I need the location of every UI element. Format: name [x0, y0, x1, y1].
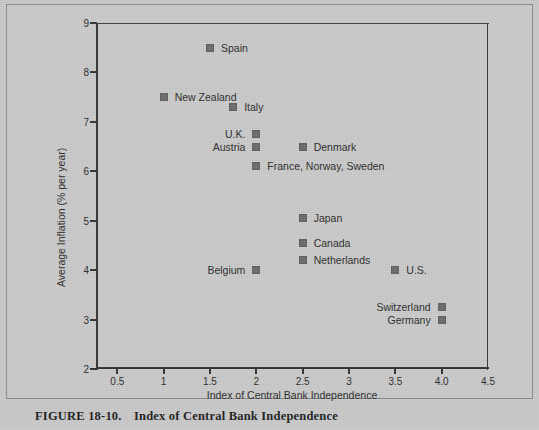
data-point-marker	[252, 266, 260, 274]
data-point-marker	[299, 239, 307, 247]
y-axis-tick-label: 9	[83, 18, 89, 29]
data-point-marker	[391, 266, 399, 274]
data-point-label: Austria	[213, 141, 246, 153]
plot-right-border	[487, 23, 488, 370]
y-axis-tick-label: 3	[83, 314, 89, 325]
x-axis-tick-label: 1	[161, 376, 167, 387]
x-axis-tick	[441, 368, 443, 374]
figure-caption-number: FIGURE 18-10.	[35, 409, 122, 423]
x-axis-tick-label: 4.0	[435, 376, 449, 387]
x-axis-tick	[394, 368, 396, 374]
y-axis-tick	[90, 121, 97, 123]
x-axis-title-text: Index of Central Bank Independence	[207, 389, 377, 401]
y-axis-tick-label: 7	[83, 116, 89, 127]
x-axis-tick	[255, 368, 257, 374]
y-axis-tick	[90, 319, 97, 321]
y-axis-tick	[90, 269, 97, 271]
data-point-marker	[252, 130, 260, 138]
data-point-marker	[252, 162, 260, 170]
data-point-label: France, Norway, Sweden	[267, 160, 384, 172]
data-point-label: Netherlands	[314, 254, 371, 266]
y-axis-tick	[90, 71, 97, 73]
x-axis-title: Index of Central Bank Independence	[96, 389, 488, 401]
data-point-label: New Zealand	[175, 91, 237, 103]
x-axis-tick-label: 2.5	[296, 376, 310, 387]
plot-top-border	[96, 23, 489, 24]
y-axis-title-text: Average Inflation (% per year)	[55, 148, 67, 287]
y-axis-tick-label: 2	[83, 364, 89, 375]
data-point-label: Spain	[221, 42, 248, 54]
x-axis-tick	[116, 368, 118, 374]
data-point-marker	[252, 143, 260, 151]
data-point-label: Japan	[314, 212, 343, 224]
x-axis-tick-label: 2	[254, 376, 260, 387]
x-axis-tick-label: 1.5	[203, 376, 217, 387]
y-axis-tick	[90, 170, 97, 172]
figure-page: Average Inflation (% per year) 23456789 …	[0, 0, 539, 430]
data-point-marker	[438, 303, 446, 311]
x-axis-tick-label: 0.5	[110, 376, 124, 387]
data-point-marker	[299, 214, 307, 222]
data-point-marker	[160, 93, 168, 101]
y-axis-tick-label: 6	[83, 166, 89, 177]
data-point-marker	[229, 103, 237, 111]
y-axis-tick	[90, 22, 97, 24]
y-axis-tick-label: 5	[83, 215, 89, 226]
data-point-label: Germany	[387, 314, 430, 326]
figure-frame: Average Inflation (% per year) 23456789 …	[6, 4, 533, 399]
x-axis-tick-label: 3	[346, 376, 352, 387]
data-point-marker	[438, 316, 446, 324]
x-axis-tick-label: 4.5	[481, 376, 495, 387]
plot-area: 23456789 0.511.522.533.54.04.5 SpainNew …	[96, 23, 488, 369]
y-axis-tick-label: 8	[83, 67, 89, 78]
y-axis-tick-label: 4	[83, 265, 89, 276]
data-point-label: Belgium	[207, 264, 245, 276]
data-point-label: U.K.	[225, 128, 245, 140]
figure-caption-title: Index of Central Bank Independence	[134, 409, 338, 423]
data-point-label: Denmark	[314, 141, 357, 153]
x-axis-tick	[209, 368, 211, 374]
data-point-marker	[299, 256, 307, 264]
figure-caption: FIGURE 18-10. Index of Central Bank Inde…	[35, 409, 338, 424]
x-axis-line	[96, 367, 489, 369]
x-axis-tick	[163, 368, 165, 374]
data-point-marker	[299, 143, 307, 151]
data-point-marker	[206, 44, 214, 52]
y-axis-tick	[90, 368, 97, 370]
x-axis-tick-label: 3.5	[388, 376, 402, 387]
data-point-label: U.S.	[406, 264, 426, 276]
x-axis-tick	[302, 368, 304, 374]
data-point-label: Canada	[314, 237, 351, 249]
x-axis-tick	[348, 368, 350, 374]
data-point-label: Switzerland	[376, 301, 430, 313]
y-axis-tick	[90, 220, 97, 222]
data-point-label: Italy	[244, 101, 263, 113]
